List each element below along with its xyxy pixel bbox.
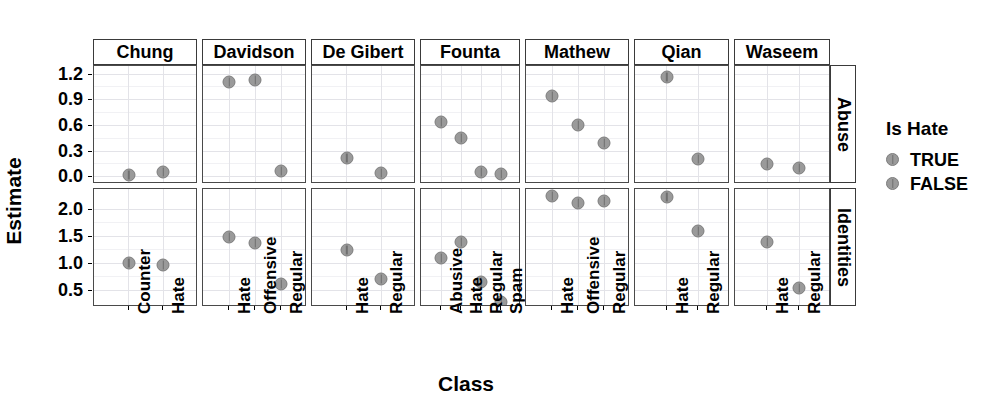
data-point [572,119,585,132]
y-tick-mark [88,176,92,177]
error-bar [128,171,129,180]
data-point [793,282,806,295]
x-tick-mark [460,306,461,310]
gridline-minor [312,163,414,164]
y-tick-label: 1.5 [0,225,83,246]
data-point [546,190,559,203]
error-bar [551,91,552,100]
error-bar [766,238,767,247]
data-point [455,131,468,144]
x-axis-title: Class [386,372,546,396]
error-bar [254,75,255,84]
gridline-minor [421,86,519,87]
gridline-minor [312,112,414,113]
y-tick-label: 1.0 [0,252,83,273]
gridline-major [635,125,728,126]
gridline-vertical [128,189,129,305]
gridline-minor [735,138,829,139]
error-bar [346,154,347,163]
gridline-minor [421,222,519,223]
panel-chung-abuse [93,65,197,183]
facet-label-waseem: Waseem [734,39,830,65]
gridline-major [635,236,728,237]
legend-label-true[interactable]: TRUE [910,150,959,171]
error-bar [577,121,578,130]
x-tick-label-hate: Hate [467,277,487,314]
x-tick-mark [577,306,578,310]
gridline-minor [94,112,196,113]
error-bar [798,284,799,293]
y-tick-mark [88,236,92,237]
gridline-major [312,236,414,237]
gridline-major [312,151,414,152]
gridline-vertical [461,66,462,182]
legend-key-false [886,177,899,190]
x-tick-mark [128,306,129,310]
gridline-minor [635,112,728,113]
gridline-vertical [698,189,699,305]
panel-founta-abuse [420,65,520,183]
gridline-vertical [441,189,442,305]
gridline-minor [312,86,414,87]
gridline-major [94,125,196,126]
gridline-minor [735,222,829,223]
y-tick-mark [88,99,92,100]
x-tick-mark [162,306,163,310]
data-point [692,224,705,237]
x-tick-mark [798,306,799,310]
data-point [340,152,353,165]
gridline-major [94,236,196,237]
gridline-major [312,74,414,75]
data-point [375,273,388,286]
facet-label-de-gibert: De Gibert [311,39,415,65]
gridline-major [735,209,829,210]
data-point [223,230,236,243]
error-bar [460,133,461,142]
data-point [660,71,673,84]
error-bar [440,117,441,126]
gridline-minor [635,222,728,223]
error-bar [603,197,604,206]
panel-de-gibert-abuse [311,65,415,183]
x-tick-mark [500,306,501,310]
gridline-major [94,99,196,100]
legend-key-true [886,153,899,166]
error-bar [228,232,229,241]
x-tick-mark [480,306,481,310]
gridline-major [421,209,519,210]
x-tick-mark [666,306,667,310]
error-bar [460,238,461,247]
x-tick-mark [228,306,229,310]
gridline-minor [421,112,519,113]
gridline-minor [94,86,196,87]
gridline-major [635,209,728,210]
gridline-minor [94,222,196,223]
gridline-major [421,74,519,75]
y-tick-label: 0.5 [0,279,83,300]
gridline-major [635,176,728,177]
facet-label-founta: Founta [420,39,520,65]
error-bar [551,192,552,201]
data-point [692,153,705,166]
x-tick-label-offensive: Offensive [261,237,281,314]
data-point [122,169,135,182]
gridline-major [421,236,519,237]
gridline-major [735,125,829,126]
y-tick-mark [88,263,92,264]
data-point [435,115,448,128]
y-tick-mark [88,125,92,126]
legend-label-false[interactable]: FALSE [910,174,968,195]
x-tick-label-offensive: Offensive [584,237,604,314]
facet-label-mathew: Mathew [525,39,629,65]
data-point [157,259,170,272]
x-tick-mark [346,306,347,310]
gridline-minor [635,163,728,164]
facet-label-abuse: Abuse [830,65,856,183]
error-bar [163,168,164,177]
gridline-minor [635,138,728,139]
error-bar [666,73,667,82]
panel-mathew-abuse [525,65,629,183]
x-tick-label-hate: Hate [235,277,255,314]
error-bar [163,261,164,270]
y-tick-label: 0.9 [0,89,83,110]
